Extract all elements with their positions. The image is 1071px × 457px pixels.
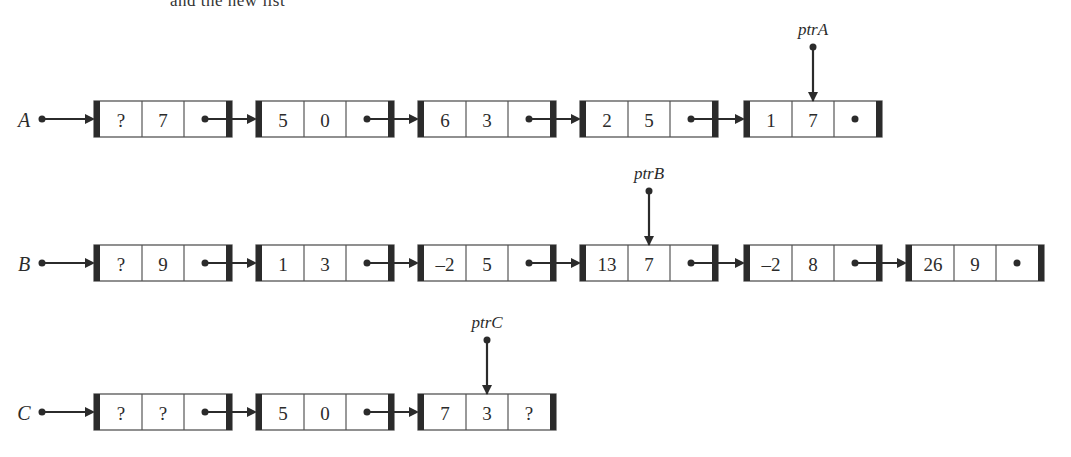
- list-node: 63: [418, 101, 580, 137]
- node-field-value: 2: [602, 110, 612, 131]
- list-row-b: B?913–25137–28269ptrB: [18, 164, 1044, 282]
- node-left-bar: [94, 245, 100, 281]
- node-field-value: 7: [644, 254, 654, 275]
- node-field-value: ?: [159, 403, 167, 424]
- node-left-bar: [94, 101, 100, 137]
- node-right-bar: [1038, 245, 1044, 281]
- node-field-value: 0: [320, 403, 330, 424]
- list-node: ?7: [94, 101, 256, 137]
- node-field-value: 5: [278, 110, 288, 131]
- list-node: –25: [418, 245, 580, 281]
- list-node: 25: [580, 101, 744, 137]
- list-row-a: A?750632517ptrA: [16, 20, 882, 138]
- list-head-label: C: [17, 402, 31, 424]
- node-left-bar: [906, 245, 912, 281]
- list-node: ??: [94, 394, 256, 430]
- node-left-bar: [418, 394, 424, 430]
- list-node: 50: [256, 101, 418, 137]
- node-left-bar: [580, 245, 586, 281]
- node-field-value: 0: [320, 110, 330, 131]
- node-field-value: 13: [598, 254, 617, 275]
- node-field-value: 26: [924, 254, 943, 275]
- node-left-bar: [256, 245, 262, 281]
- next-field-unknown: ?: [525, 403, 533, 424]
- node-field-value: ?: [117, 110, 125, 131]
- list-head-label: B: [18, 253, 30, 275]
- node-field-value: 5: [644, 110, 654, 131]
- list-node: 17: [744, 101, 882, 137]
- list-node: 269: [906, 245, 1044, 281]
- null-pointer-dot-icon: [852, 116, 859, 123]
- pointer-label-ptrb: ptrB: [633, 164, 665, 183]
- list-node: ?9: [94, 245, 256, 281]
- null-pointer-dot-icon: [1014, 260, 1021, 267]
- pointer-label-ptra: ptrA: [797, 20, 829, 39]
- node-field-value: ?: [117, 403, 125, 424]
- node-field-value: 5: [482, 254, 492, 275]
- list-node: 50: [256, 394, 418, 430]
- node-field-value: 9: [158, 254, 168, 275]
- list-head-label: A: [16, 109, 31, 131]
- node-left-bar: [418, 245, 424, 281]
- node-field-value: 3: [320, 254, 330, 275]
- node-left-bar: [580, 101, 586, 137]
- pointer-label-ptrc: ptrC: [470, 313, 503, 332]
- list-row-c: C??5073?ptrC: [17, 313, 556, 431]
- node-right-bar: [876, 101, 882, 137]
- node-field-value: 8: [808, 254, 818, 275]
- node-field-value: 3: [482, 403, 492, 424]
- node-left-bar: [744, 101, 750, 137]
- node-field-value: 3: [482, 110, 492, 131]
- list-node: –28: [744, 245, 906, 281]
- list-node: 13: [256, 245, 418, 281]
- node-right-bar: [550, 394, 556, 430]
- node-field-value: 5: [278, 403, 288, 424]
- node-field-value: 6: [440, 110, 450, 131]
- list-node: 73?: [418, 394, 556, 430]
- node-field-value: ?: [117, 254, 125, 275]
- node-field-value: 1: [766, 110, 776, 131]
- node-field-value: 1: [278, 254, 288, 275]
- node-field-value: 7: [158, 110, 168, 131]
- node-field-value: 7: [808, 110, 818, 131]
- node-field-value: 9: [970, 254, 980, 275]
- node-left-bar: [256, 101, 262, 137]
- node-field-value: –2: [761, 254, 781, 275]
- node-left-bar: [94, 394, 100, 430]
- linked-list-diagram: A?750632517ptrAB?913–25137–28269ptrBC??5…: [0, 0, 1071, 457]
- node-left-bar: [256, 394, 262, 430]
- node-left-bar: [418, 101, 424, 137]
- node-field-value: 7: [440, 403, 450, 424]
- list-node: 137: [580, 245, 744, 281]
- node-field-value: –2: [435, 254, 455, 275]
- node-left-bar: [744, 245, 750, 281]
